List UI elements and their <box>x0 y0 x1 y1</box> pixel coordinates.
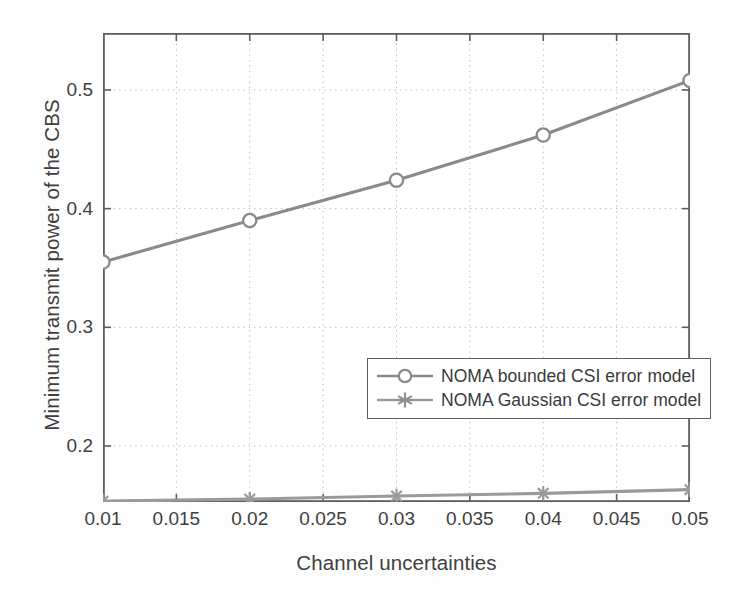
legend-box: NOMA bounded CSI error model NOMA Gaussi… <box>367 358 711 419</box>
circle-marker-icon <box>376 366 434 386</box>
y-tick-label: 0.5 <box>33 79 93 101</box>
y-tick-label: 0.2 <box>33 435 93 457</box>
data-point-marker <box>536 486 551 501</box>
x-tick-label: 0.02 <box>231 508 268 530</box>
x-tick-label: 0.045 <box>593 508 641 530</box>
figure-chart: Minimum transmit power of the CBS Channe… <box>0 0 738 593</box>
data-point-marker <box>537 128 550 141</box>
legend-label-bounded: NOMA bounded CSI error model <box>441 366 695 387</box>
plot-svg <box>103 33 690 502</box>
x-tick-label: 0.05 <box>672 508 709 530</box>
x-tick-label: 0.035 <box>446 508 494 530</box>
x-tick-label: 0.015 <box>153 508 201 530</box>
x-tick-label: 0.01 <box>85 508 122 530</box>
series-line-2 <box>103 482 690 502</box>
legend-label-gaussian: NOMA Gaussian CSI error model <box>441 390 701 411</box>
asterisk-marker-icon <box>376 390 434 410</box>
legend-entry-bounded: NOMA bounded CSI error model <box>376 364 701 388</box>
series-line-1 <box>103 74 690 269</box>
data-point-marker <box>390 174 403 187</box>
y-tick-label: 0.4 <box>33 198 93 220</box>
x-tick-label: 0.025 <box>299 508 347 530</box>
x-tick-label: 0.04 <box>525 508 562 530</box>
data-point-marker <box>243 214 256 227</box>
data-point-marker <box>103 255 110 268</box>
legend-entry-gaussian: NOMA Gaussian CSI error model <box>376 388 701 412</box>
y-axis-title: Minimum transmit power of the CBS <box>40 45 64 485</box>
data-point-marker <box>389 489 404 502</box>
y-tick-label: 0.3 <box>33 316 93 338</box>
x-axis-title: Channel uncertainties <box>103 551 690 575</box>
data-point-marker <box>683 74 690 87</box>
x-tick-label: 0.03 <box>378 508 415 530</box>
plot-area <box>103 33 690 502</box>
